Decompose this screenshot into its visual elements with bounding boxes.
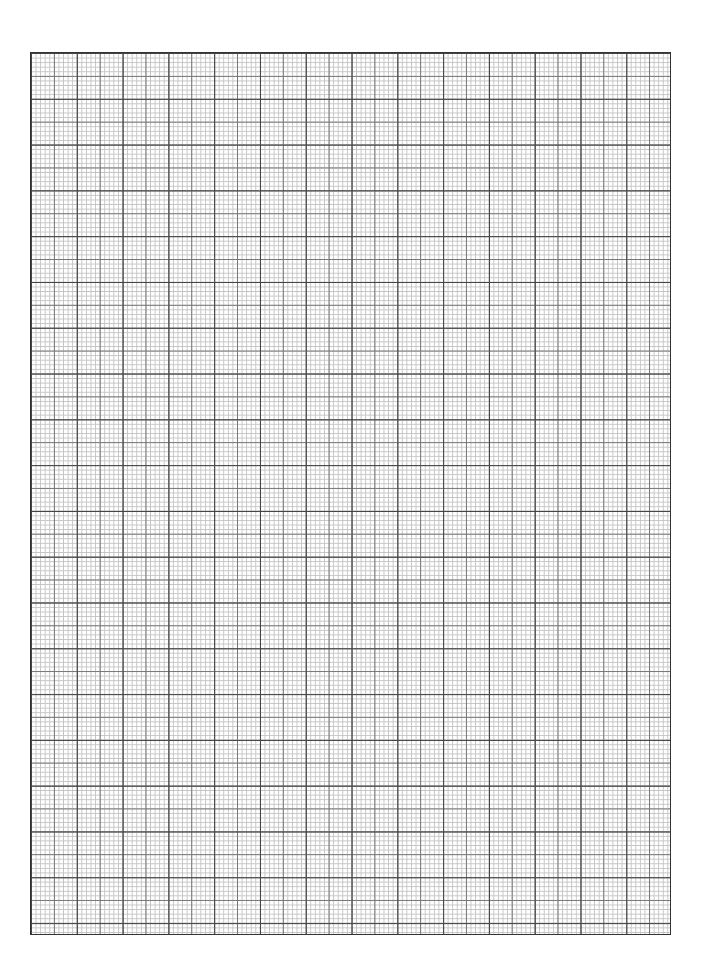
graph-paper-grid (30, 52, 671, 935)
